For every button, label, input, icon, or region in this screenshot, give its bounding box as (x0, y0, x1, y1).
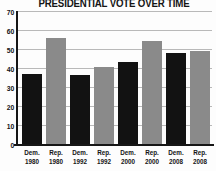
y-tick-label-70: 70 (6, 8, 14, 17)
y-tick-label-40: 40 (6, 65, 14, 74)
plot-area (18, 12, 212, 145)
bar-rep-1980 (46, 38, 66, 145)
y-axis-tick-labels: 010203040506070 (0, 12, 15, 145)
x-tick-label-rep-1992: Rep.1992 (94, 149, 113, 166)
bar-rep-2008 (190, 51, 210, 145)
chart-title: PRESIDENTIAL VOTE OVER TIME (26, 0, 202, 9)
y-axis-line (16, 11, 18, 146)
x-tick-label-dem-1980: Dem.1980 (22, 149, 41, 166)
bar-dem-1992 (70, 75, 90, 145)
x-tick-label-rep-2000: Rep.2000 (142, 149, 161, 166)
bar-rep-2000 (142, 41, 162, 146)
bar-dem-2000 (118, 62, 138, 145)
x-axis-line (14, 144, 214, 146)
y-tick-label-30: 30 (6, 84, 14, 93)
y-tick-label-20: 20 (6, 103, 14, 112)
y-tick-label-60: 60 (6, 27, 14, 36)
x-tick-label-dem-2000: Dem.2000 (118, 149, 137, 166)
chart: PRESIDENTIAL VOTE OVER TIME 010203040506… (0, 0, 216, 171)
bar-dem-1980 (22, 74, 42, 145)
y-tick-label-0: 0 (10, 141, 14, 150)
x-axis-tick-labels: Dem.1980Rep.1980Dem.1992Rep.1992Dem.2000… (18, 149, 212, 166)
y-tick-label-10: 10 (6, 122, 14, 131)
y-tick-label-50: 50 (6, 46, 14, 55)
bar-dem-2008 (166, 53, 186, 145)
x-tick-label-dem-2008: Dem.2008 (166, 149, 185, 166)
x-tick-label-rep-1980: Rep.1980 (46, 149, 65, 166)
x-tick-label-rep-2008: Rep.2008 (190, 149, 209, 166)
bar-series (18, 12, 212, 145)
bar-rep-1992 (94, 67, 114, 145)
x-tick-label-dem-1992: Dem.1992 (70, 149, 89, 166)
